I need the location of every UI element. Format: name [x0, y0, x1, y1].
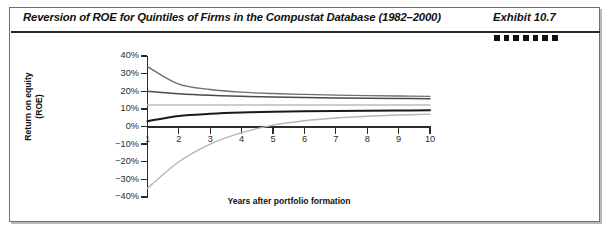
chart-series-lines — [10, 8, 601, 223]
chart-plot-area: Return on equity (ROE) 40%30%20%10%0%−10… — [10, 8, 601, 223]
chart-line-series — [148, 114, 431, 188]
chart-line-series — [148, 67, 431, 97]
exhibit-frame: Reversion of ROE for Quintiles of Firms … — [9, 7, 600, 222]
chart-line-series — [148, 91, 431, 98]
